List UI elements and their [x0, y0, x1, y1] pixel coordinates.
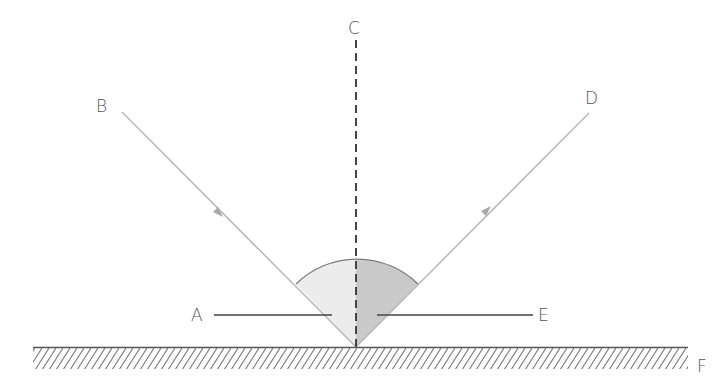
reflecting-surface [33, 348, 688, 370]
label-c: C [348, 20, 360, 37]
arrow-up-right-icon [481, 206, 491, 216]
label-a: A [191, 307, 203, 324]
label-b: B [96, 98, 107, 115]
reflection-angle-sector [356, 260, 418, 347]
label-d: D [585, 90, 598, 107]
incidence-angle-sector [296, 260, 356, 347]
label-e: E [538, 307, 549, 324]
reflected-ray [356, 113, 589, 347]
incident-ray [122, 112, 356, 347]
label-f: F [697, 358, 707, 375]
reflection-diagram: C B D A E F [0, 0, 727, 390]
